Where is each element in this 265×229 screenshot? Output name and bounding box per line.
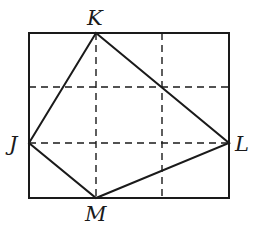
vertex-label-k: K bbox=[86, 6, 104, 30]
quadrilateral-jklm bbox=[29, 33, 229, 198]
outer-rectangle bbox=[29, 33, 229, 198]
dashed-grid bbox=[29, 33, 229, 198]
vertex-label-l: L bbox=[234, 132, 249, 156]
vertex-label-m: M bbox=[84, 202, 107, 226]
vertex-label-j: J bbox=[5, 132, 19, 156]
diagram-canvas: K L M J bbox=[0, 0, 265, 229]
